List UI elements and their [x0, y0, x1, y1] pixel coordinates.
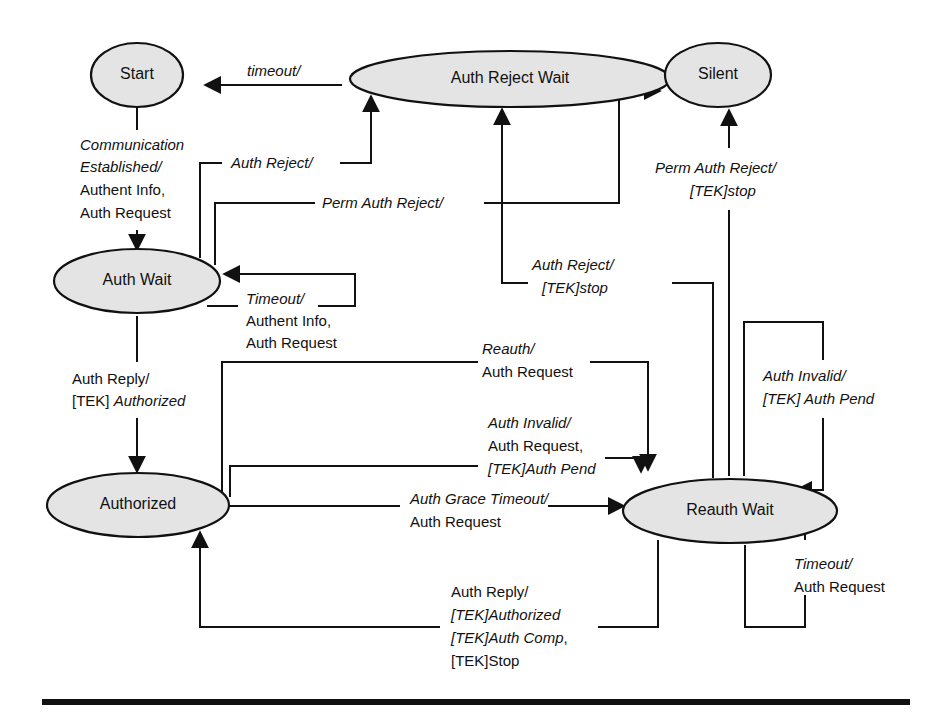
svg-text:Established/: Established/ — [80, 158, 164, 175]
state-auth-wait-label: Auth Wait — [103, 271, 172, 288]
svg-text:Auth Reply/: Auth Reply/ — [72, 370, 150, 387]
svg-text:Auth Grace Timeout/: Auth Grace Timeout/ — [409, 490, 550, 507]
label-start-to-auth-wait: Communication Established/ Authent Info,… — [80, 136, 184, 221]
state-auth-reject-wait-label: Auth Reject Wait — [451, 69, 570, 86]
label-reject-wait-to-start: timeout/ — [247, 62, 302, 79]
label-reauth-to-reject-wait: Auth Reject/ [TEK]stop — [531, 256, 616, 296]
edge-auth-wait-to-reject-wait — [200, 96, 371, 258]
svg-text:Auth Request: Auth Request — [482, 363, 574, 380]
svg-text:[TEK]stop: [TEK]stop — [689, 182, 756, 199]
label-auth-wait-to-reject-wait: Auth Reject/ — [230, 154, 315, 171]
label-reauth-to-silent: Perm Auth Reject/ [TEK]stop — [655, 159, 778, 199]
label-auth-wait-to-silent: Perm Auth Reject/ — [322, 194, 445, 211]
edge-reauth-to-authorized — [200, 532, 658, 627]
svg-text:Auth Request: Auth Request — [80, 204, 172, 221]
state-authorized-label: Authorized — [100, 495, 177, 512]
label-reauth-to-authorized: Auth Reply/ [TEK]Authorized [TEK]Auth Co… — [450, 583, 568, 669]
label-auth-wait-timeout: Timeout/ Authent Info, Auth Request — [246, 290, 338, 351]
svg-text:Perm Auth Reject/: Perm Auth Reject/ — [655, 159, 778, 176]
state-authorized: Authorized — [47, 473, 229, 537]
state-start: Start — [91, 43, 183, 107]
label-authorized-auth-invalid: Auth Invalid/ Auth Request, [TEK]Auth Pe… — [487, 414, 596, 477]
state-start-label: Start — [120, 65, 154, 82]
svg-text:Auth Request: Auth Request — [410, 513, 502, 530]
svg-text:Communication: Communication — [80, 136, 184, 153]
edge-auth-wait-to-silent — [215, 91, 660, 265]
state-auth-reject-wait: Auth Reject Wait — [350, 51, 670, 107]
svg-text:Auth Reject/: Auth Reject/ — [531, 256, 616, 273]
label-reauth-timeout: Timeout/ Auth Request — [794, 555, 886, 595]
state-auth-wait: Auth Wait — [54, 249, 220, 313]
bottom-divider — [42, 699, 910, 705]
svg-text:[TEK]Auth Pend: [TEK]Auth Pend — [487, 460, 596, 477]
svg-text:Auth Request,: Auth Request, — [488, 437, 583, 454]
svg-text:[TEK] Authorized: [TEK] Authorized — [72, 392, 186, 409]
svg-text:Auth Reply/: Auth Reply/ — [451, 583, 529, 600]
svg-text:[TEK]Auth Comp,: [TEK]Auth Comp, — [450, 629, 568, 646]
state-reauth-wait-label: Reauth Wait — [686, 501, 774, 518]
svg-text:Auth Request: Auth Request — [794, 578, 886, 595]
label-reauth-auth-invalid: Auth Invalid/ [TEK] Auth Pend — [762, 367, 875, 407]
svg-text:[TEK] Auth Pend: [TEK] Auth Pend — [762, 390, 875, 407]
svg-text:Auth Invalid/: Auth Invalid/ — [487, 414, 572, 431]
svg-text:[TEK]Stop: [TEK]Stop — [451, 652, 519, 669]
state-reauth-wait: Reauth Wait — [623, 479, 837, 543]
svg-text:Auth Request: Auth Request — [246, 334, 338, 351]
state-diagram: Start Auth Reject Wait Silent Auth Wait … — [0, 0, 943, 715]
label-auth-wait-to-authorized: Auth Reply/ [TEK] Authorized — [72, 370, 186, 409]
svg-text:Timeout/: Timeout/ — [794, 555, 854, 572]
svg-text:Authent Info,: Authent Info, — [80, 181, 165, 198]
svg-text:[TEK]Authorized: [TEK]Authorized — [450, 606, 561, 623]
svg-text:Reauth/: Reauth/ — [482, 340, 536, 357]
svg-text:Timeout/: Timeout/ — [246, 290, 306, 307]
svg-text:Auth Invalid/: Auth Invalid/ — [762, 367, 847, 384]
label-authorized-grace-timeout: Auth Grace Timeout/ Auth Request — [409, 490, 550, 530]
label-authorized-reauth: Reauth/ Auth Request — [482, 340, 574, 380]
state-silent: Silent — [665, 43, 771, 107]
svg-text:Authent Info,: Authent Info, — [246, 312, 331, 329]
state-silent-label: Silent — [698, 65, 739, 82]
svg-text:[TEK]stop: [TEK]stop — [541, 279, 608, 296]
